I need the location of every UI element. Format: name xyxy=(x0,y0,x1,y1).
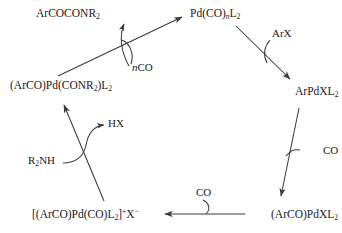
reagent-label-co-right: CO xyxy=(323,145,338,156)
reagent-label-nco: nCO xyxy=(132,62,153,73)
species-label-acyl-carbamoyl: (ArCO)Pd(CONR2)L2 xyxy=(10,80,112,92)
arrow-acylcarbamoyl-to-pdco xyxy=(58,17,182,76)
reagent-label-arx: ArX xyxy=(272,28,292,39)
species-label-diamide: ArCOCONR2 xyxy=(36,8,100,20)
species-label-acyl-palladium: (ArCO)PdXL2 xyxy=(271,209,338,221)
arrow-r2nh-to-hx xyxy=(63,125,104,163)
arrow-co-right-feeder xyxy=(286,150,300,156)
species-label-cationic-complex: [(ArCO)Pd(CO)L2]+X− xyxy=(32,209,139,221)
arrow-co-bottom-feeder xyxy=(203,200,209,214)
arrow-cationic-to-acylcarbamoyl xyxy=(64,105,104,201)
reagent-label-co-bottom: CO xyxy=(196,187,211,198)
species-label-aryl-palladium: ArPdXL2 xyxy=(295,86,338,98)
species-label-pd-carbonyl: Pd(CO)nL2 xyxy=(190,8,240,20)
arrow-arx-feeder xyxy=(265,40,270,63)
reagent-label-r2nh: R2NH xyxy=(28,155,55,166)
reagent-label-hx: HX xyxy=(108,118,124,129)
